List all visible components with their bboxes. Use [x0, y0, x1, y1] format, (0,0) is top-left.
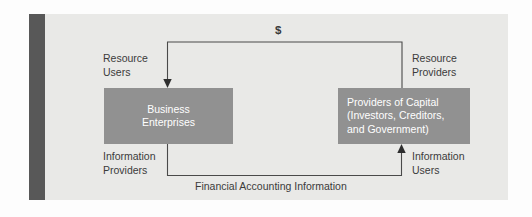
information-flow-path — [168, 144, 402, 176]
diagram-root: $ Resource Users Resource Providers Busi… — [0, 0, 532, 217]
node-business-enterprises-label: Business Enterprises — [142, 103, 195, 130]
node-providers-of-capital: Providers of Capital (Investors, Credito… — [338, 88, 470, 144]
capital-flow-path — [168, 42, 403, 88]
label-information-providers: Information Providers — [103, 150, 156, 177]
label-resource-providers: Resource Providers — [412, 52, 457, 79]
label-information-users: Information Users — [412, 150, 465, 177]
node-providers-of-capital-label: Providers of Capital (Investors, Credito… — [347, 96, 444, 137]
capital-flow-label: $ — [275, 24, 281, 38]
node-business-enterprises: Business Enterprises — [104, 88, 233, 144]
information-flow-arrowhead — [397, 144, 405, 153]
label-resource-users: Resource Users — [103, 52, 148, 79]
information-flow-label: Financial Accounting Information — [195, 180, 347, 194]
capital-flow-arrowhead — [163, 79, 171, 88]
